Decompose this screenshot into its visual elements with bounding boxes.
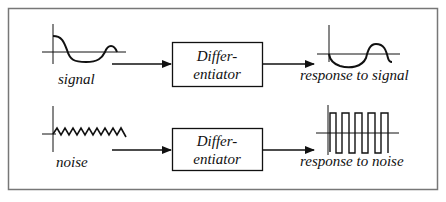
differentiator-diagram: signal Differ- entiator response to sign…: [0, 0, 446, 202]
zigzag-noise-icon: [42, 106, 126, 152]
differentiator-block-noise: Differ- entiator: [173, 129, 263, 171]
noise-row: noise Differ- entiator response to noise: [42, 105, 404, 171]
block-label-line1: Differ-: [196, 48, 238, 64]
response-to-signal-label: response to signal: [300, 67, 409, 83]
block-label-line2: entiator: [193, 66, 241, 82]
response-to-noise-label: response to noise: [300, 153, 404, 169]
noise-label: noise: [56, 154, 88, 170]
block-label-line2: entiator: [193, 151, 241, 167]
block-label-line1: Differ-: [196, 133, 238, 149]
differentiator-block-signal: Differ- entiator: [173, 43, 263, 87]
square-wave-icon: [316, 105, 399, 155]
signal-row: signal Differ- entiator response to sign…: [42, 24, 409, 87]
signal-label: signal: [58, 71, 95, 87]
smooth-wave-icon: [42, 24, 126, 64]
smooth-derivative-wave-icon: [317, 25, 400, 67]
